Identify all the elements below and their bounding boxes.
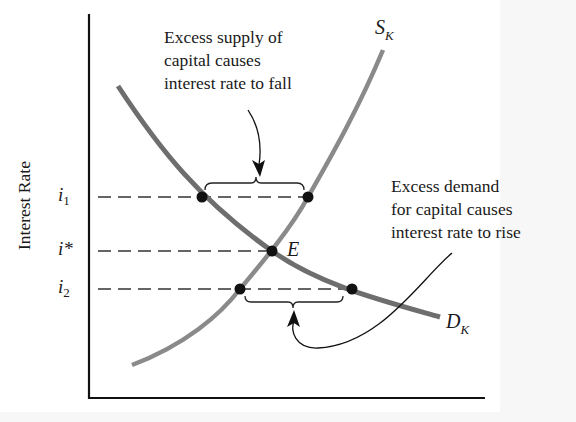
excess-supply-brace bbox=[205, 177, 304, 190]
excess-supply-line-3: interest rate to fall bbox=[164, 72, 292, 95]
diagram-canvas: Interest Rate i1 i* i2 SK DK E Excess su… bbox=[0, 0, 576, 422]
tick-i2: i2 bbox=[58, 277, 70, 303]
tick-istar-base: i* bbox=[58, 238, 73, 259]
supply-curve bbox=[132, 50, 383, 365]
demand-label-sub: K bbox=[460, 322, 469, 337]
excess-demand-line-1: Excess demand bbox=[391, 175, 521, 198]
point-supply-at-i2 bbox=[235, 284, 246, 295]
excess-supply-arrow-shaft bbox=[248, 110, 260, 165]
y-axis-label: Interest Rate bbox=[14, 161, 35, 250]
excess-demand-line-2: for capital causes bbox=[391, 198, 521, 221]
excess-demand-line-3: interest rate to rise bbox=[391, 221, 521, 244]
equilibrium-label: E bbox=[287, 238, 299, 261]
tick-i1-sub: 1 bbox=[63, 193, 70, 208]
excess-supply-line-2: capital causes bbox=[164, 49, 292, 72]
supply-curve-label: SK bbox=[375, 16, 394, 44]
excess-supply-arrowhead-icon bbox=[252, 160, 265, 177]
point-demand-at-i2 bbox=[347, 284, 358, 295]
excess-supply-line-1: Excess supply of bbox=[164, 26, 292, 49]
tick-i2-sub: 2 bbox=[63, 285, 70, 300]
supply-label-base: S bbox=[375, 16, 385, 38]
demand-label-base: D bbox=[446, 310, 460, 332]
excess-supply-annotation: Excess supply of capital causes interest… bbox=[164, 26, 292, 95]
point-equilibrium bbox=[267, 246, 278, 257]
point-supply-at-i1 bbox=[303, 192, 314, 203]
excess-demand-arrow-shaft bbox=[293, 253, 452, 348]
tick-istar: i* bbox=[58, 239, 73, 259]
demand-curve-label: DK bbox=[446, 310, 469, 338]
supply-label-sub: K bbox=[385, 28, 394, 43]
excess-demand-brace bbox=[245, 296, 343, 308]
excess-demand-annotation: Excess demand for capital causes interes… bbox=[391, 175, 521, 244]
point-demand-at-i1 bbox=[197, 192, 208, 203]
tick-i1: i1 bbox=[58, 185, 70, 211]
